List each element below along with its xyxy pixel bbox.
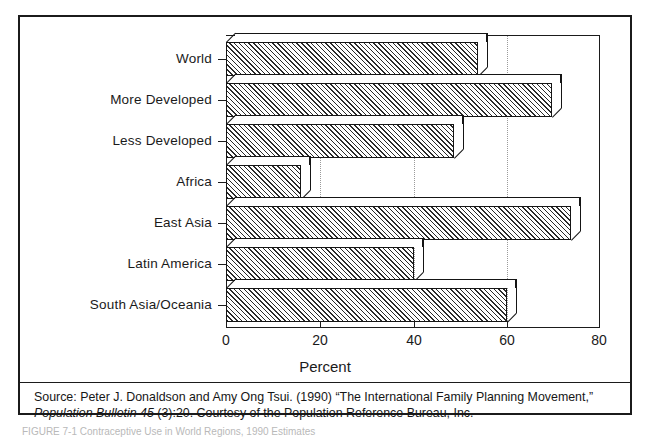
cat-tick-4 xyxy=(218,223,226,224)
bar-less-developed-top xyxy=(235,115,463,124)
chart-plot-area: World More Developed Less Developed Afri… xyxy=(20,17,634,347)
source-divider xyxy=(20,382,630,383)
bar-more-developed-side-right xyxy=(561,74,562,108)
source-publication-rest: (3):20. Courtesy of the Population Refer… xyxy=(154,406,474,420)
bar-latin-america-side-right xyxy=(423,238,424,272)
bar-more-developed-top xyxy=(235,74,561,83)
cat-label-south-asia-oceania: South Asia/Oceania xyxy=(24,298,212,312)
bar-latin-america-face xyxy=(226,247,414,281)
source-publication-title: Population Bulletin 45 xyxy=(34,406,154,420)
cat-label-latin-america: Latin America xyxy=(30,257,212,271)
x-tick-label-20: 20 xyxy=(300,333,340,347)
bar-less-developed-face xyxy=(226,124,454,158)
bar-more-developed-face xyxy=(226,83,552,117)
bar-latin-america-top xyxy=(235,238,423,247)
bar-latin-america[interactable] xyxy=(226,247,426,281)
cat-tick-6 xyxy=(218,305,226,306)
bar-east-asia-side-right xyxy=(580,197,581,231)
plot-right-rule xyxy=(599,35,600,327)
bar-africa-side-right xyxy=(310,156,311,190)
x-tick-80 xyxy=(599,321,600,328)
x-tick-label-60: 60 xyxy=(487,333,527,347)
bar-south-asia-oceania[interactable] xyxy=(226,288,526,322)
x-tick-label-0: 0 xyxy=(206,333,246,347)
figure-frame: World More Developed Less Developed Afri… xyxy=(18,15,632,415)
source-line-1: Source: Peter J. Donaldson and Amy Ong T… xyxy=(34,390,618,406)
bar-less-developed[interactable] xyxy=(226,124,466,158)
cat-label-more-developed: More Developed xyxy=(30,93,212,107)
source-line-2: Population Bulletin 45 (3):20. Courtesy … xyxy=(34,406,618,422)
bar-east-asia[interactable] xyxy=(226,206,586,240)
cat-tick-0 xyxy=(218,59,226,60)
bar-more-developed-side-lower xyxy=(552,108,562,118)
source-note: Source: Peter J. Donaldson and Amy Ong T… xyxy=(34,390,618,421)
bar-world[interactable] xyxy=(226,42,486,76)
figure-caption-clipped: FIGURE 7-1 Contraceptive Use in World Re… xyxy=(22,426,315,438)
bar-east-asia-top xyxy=(235,197,580,206)
bar-world-side-right xyxy=(487,33,488,67)
bar-east-asia-face xyxy=(226,206,571,240)
bar-south-asia-oceania-side-right xyxy=(516,279,517,313)
bar-more-developed[interactable] xyxy=(226,83,566,117)
bar-south-asia-oceania-top xyxy=(235,279,516,288)
x-tick-20 xyxy=(320,321,321,328)
cat-label-africa: Africa xyxy=(30,175,212,189)
cat-tick-1 xyxy=(218,100,226,101)
bar-less-developed-side-right xyxy=(463,115,464,149)
x-tick-0 xyxy=(226,321,227,328)
x-tick-label-80: 80 xyxy=(579,333,619,347)
bar-africa-top xyxy=(235,156,310,165)
cat-tick-5 xyxy=(218,264,226,265)
bar-world-top xyxy=(235,33,487,42)
bar-south-asia-oceania-side-lower xyxy=(507,313,517,323)
bar-world-face xyxy=(226,42,478,76)
bar-africa-face xyxy=(226,165,301,199)
bar-south-asia-oceania-face xyxy=(226,288,507,322)
cat-tick-3 xyxy=(218,182,226,183)
x-tick-label-40: 40 xyxy=(394,333,434,347)
cat-label-world: World xyxy=(30,52,212,66)
bar-africa[interactable] xyxy=(226,165,316,199)
x-axis-title: Percent xyxy=(20,358,630,375)
bar-east-asia-side-lower xyxy=(571,231,581,241)
cat-label-less-developed: Less Developed xyxy=(30,134,212,148)
x-tick-60 xyxy=(507,321,508,328)
cat-tick-2 xyxy=(218,141,226,142)
x-axis-line xyxy=(226,327,599,328)
x-tick-40 xyxy=(414,321,415,328)
cat-label-east-asia: East Asia xyxy=(30,216,212,230)
bar-less-developed-side-lower xyxy=(454,149,464,159)
